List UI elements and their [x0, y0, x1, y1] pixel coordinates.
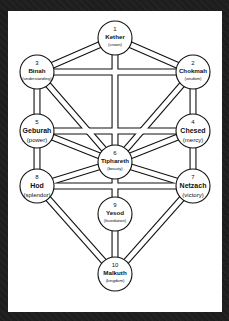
sephira-binah: 3Binah(understanding) — [20, 60, 54, 81]
sephira-name: Binah — [20, 68, 54, 74]
sephira-meaning: (understanding) — [20, 77, 54, 81]
sephira-number: 2 — [176, 60, 210, 66]
sephira-meaning: (kingdom) — [98, 279, 132, 283]
sephira-name: Chesed — [176, 127, 210, 134]
sephira-number: 8 — [20, 174, 54, 180]
sephira-number: 1 — [98, 26, 132, 32]
sephira-chokmah: 2Chokmah(wisdom) — [176, 60, 210, 81]
sephira-number: 4 — [176, 119, 210, 125]
sephira-name: Malkuth — [98, 270, 132, 276]
sephira-hod: 8Hod(splendor) — [20, 174, 54, 198]
path-hod-malkuth — [37, 186, 115, 274]
sephira-meaning: (splendor) — [20, 192, 54, 198]
sephira-meaning: (mercy) — [176, 137, 210, 143]
sephira-meaning: (crown) — [98, 43, 132, 47]
sephira-name: Chokmah — [176, 68, 210, 74]
sephira-name: Netzach — [176, 182, 210, 189]
sephira-number: 3 — [20, 60, 54, 66]
sephira-malkuth: 10Malkuth(kingdom) — [98, 262, 132, 283]
sephira-meaning: (foundation) — [98, 219, 132, 223]
sephira-number: 7 — [176, 174, 210, 180]
sephira-geburah: 5Geburah(power) — [20, 119, 54, 143]
sephira-name: Yesod — [98, 210, 132, 216]
sephira-kether: 1Kether(crown) — [98, 26, 132, 47]
sephira-meaning: (power) — [20, 137, 54, 143]
sephira-name: Kether — [98, 34, 132, 40]
sephira-number: 6 — [98, 150, 132, 156]
sephira-yesod: 9Yesod(foundation) — [98, 202, 132, 223]
sephira-chesed: 4Chesed(mercy) — [176, 119, 210, 143]
sephira-netzach: 7Netzach(victory) — [176, 174, 210, 198]
path-netzach-malkuth — [115, 186, 193, 274]
sephira-tiphareth: 6Tiphareth(beauty) — [98, 150, 132, 171]
sephira-name: Hod — [20, 182, 54, 189]
sephira-number: 5 — [20, 119, 54, 125]
sephira-number: 10 — [98, 262, 132, 268]
sephira-name: Tiphareth — [98, 158, 132, 164]
sephira-number: 9 — [98, 202, 132, 208]
sephira-meaning: (victory) — [176, 192, 210, 198]
sephira-meaning: (wisdom) — [176, 77, 210, 81]
sephira-meaning: (beauty) — [98, 167, 132, 171]
sephira-name: Geburah — [20, 127, 54, 134]
